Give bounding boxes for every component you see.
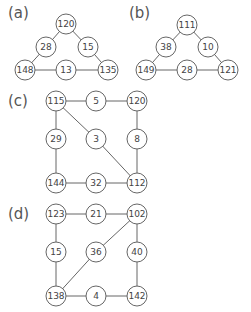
node-value: 4 bbox=[93, 291, 99, 301]
node-value: 21 bbox=[90, 209, 101, 219]
graph-node: 21 bbox=[86, 204, 106, 224]
node-value: 148 bbox=[16, 65, 33, 75]
panel-label-d: (d) bbox=[8, 205, 29, 223]
node-value: 111 bbox=[178, 20, 195, 30]
panel-label-c: (c) bbox=[8, 92, 28, 110]
graph-node: 144 bbox=[46, 173, 66, 193]
graph-node: 29 bbox=[46, 129, 66, 149]
graph-node: 28 bbox=[177, 60, 197, 80]
graph-node: 15 bbox=[78, 37, 98, 57]
node-value: 102 bbox=[128, 209, 145, 219]
graph-node: 8 bbox=[127, 129, 147, 149]
graph-node: 3 bbox=[86, 129, 106, 149]
node-value: 32 bbox=[90, 178, 101, 188]
graph-node: 38 bbox=[156, 37, 176, 57]
node-value: 28 bbox=[181, 65, 193, 75]
panel-b: (b) 111381014928121 bbox=[129, 4, 238, 80]
graph-node: 148 bbox=[15, 60, 35, 80]
panel-c: (c) 1155120293814432112 bbox=[8, 91, 147, 193]
node-value: 3 bbox=[93, 134, 99, 144]
graph-node: 149 bbox=[136, 60, 156, 80]
graph-node: 121 bbox=[218, 60, 238, 80]
nodes-a: 120281514813135 bbox=[15, 14, 118, 80]
node-value: 120 bbox=[57, 19, 74, 29]
graph-node: 32 bbox=[86, 173, 106, 193]
nodes-c: 1155120293814432112 bbox=[46, 91, 147, 193]
node-value: 112 bbox=[128, 178, 145, 188]
graph-node: 28 bbox=[36, 37, 56, 57]
node-value: 36 bbox=[90, 247, 102, 257]
nodes-d: 123211021536401384142 bbox=[46, 204, 147, 306]
graph-node: 102 bbox=[127, 204, 147, 224]
graph-node: 111 bbox=[177, 15, 197, 35]
node-value: 120 bbox=[128, 96, 145, 106]
node-value: 149 bbox=[137, 65, 154, 75]
node-value: 15 bbox=[50, 247, 61, 257]
panel-d: (d) 123211021536401384142 bbox=[8, 204, 147, 306]
node-value: 144 bbox=[47, 178, 64, 188]
graph-node: 15 bbox=[46, 242, 66, 262]
node-value: 5 bbox=[93, 96, 99, 106]
diagram-canvas: (a) 120281514813135 (b) 111381014928121 … bbox=[0, 0, 251, 312]
panel-a: (a) 120281514813135 bbox=[8, 4, 118, 80]
node-value: 138 bbox=[47, 291, 64, 301]
node-value: 121 bbox=[219, 65, 236, 75]
node-value: 142 bbox=[128, 291, 145, 301]
node-value: 8 bbox=[134, 134, 140, 144]
graph-node: 120 bbox=[56, 14, 76, 34]
node-value: 40 bbox=[131, 247, 143, 257]
graph-node: 135 bbox=[98, 60, 118, 80]
node-value: 135 bbox=[99, 65, 116, 75]
node-value: 15 bbox=[82, 42, 93, 52]
graph-node: 5 bbox=[86, 91, 106, 111]
node-value: 123 bbox=[47, 209, 64, 219]
graph-node: 4 bbox=[86, 286, 106, 306]
panel-label-a: (a) bbox=[8, 4, 29, 22]
graph-node: 142 bbox=[127, 286, 147, 306]
graph-node: 115 bbox=[46, 91, 66, 111]
node-value: 115 bbox=[47, 96, 64, 106]
graph-node: 40 bbox=[127, 242, 147, 262]
node-value: 10 bbox=[202, 42, 214, 52]
node-value: 28 bbox=[40, 42, 52, 52]
graph-node: 13 bbox=[56, 60, 76, 80]
nodes-b: 111381014928121 bbox=[136, 15, 238, 80]
graph-node: 123 bbox=[46, 204, 66, 224]
graph-node: 120 bbox=[127, 91, 147, 111]
graph-node: 10 bbox=[198, 37, 218, 57]
panel-label-b: (b) bbox=[129, 4, 150, 22]
graph-node: 138 bbox=[46, 286, 66, 306]
node-value: 38 bbox=[160, 42, 172, 52]
node-value: 29 bbox=[50, 134, 62, 144]
graph-node: 112 bbox=[127, 173, 147, 193]
node-value: 13 bbox=[60, 65, 71, 75]
graph-node: 36 bbox=[86, 242, 106, 262]
